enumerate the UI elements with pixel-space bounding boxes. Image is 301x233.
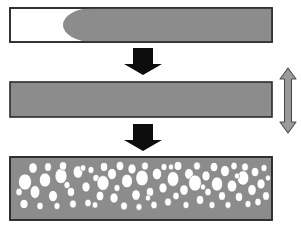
pore-ellipse [45, 163, 52, 171]
pore-ellipse [227, 180, 237, 192]
stage-1-partial-fill [10, 8, 272, 42]
pore-ellipse [173, 192, 179, 200]
pore-ellipse [261, 164, 267, 171]
pore-ellipse [108, 168, 117, 179]
melt-flow-front [63, 8, 123, 42]
pore-ellipse [189, 175, 202, 191]
pore-ellipse [200, 184, 205, 190]
pore-ellipse [54, 202, 60, 209]
pore-ellipse [263, 192, 270, 200]
pore-ellipse [122, 174, 133, 188]
pore-ellipse [202, 171, 210, 181]
pore-ellipse [70, 200, 77, 208]
pore-ellipse [88, 166, 94, 173]
pore-ellipse [165, 198, 172, 206]
pore-ellipse [128, 164, 136, 174]
pore-ellipse [110, 193, 118, 203]
pore-ellipse [183, 201, 189, 208]
pore-ellipse [235, 193, 242, 202]
pore-ellipse [16, 188, 22, 196]
pore-ellipse [161, 163, 167, 170]
pore-ellipse [194, 162, 201, 170]
stage-2-full-fill [10, 82, 272, 117]
pore-ellipse [180, 185, 188, 195]
diagram-canvas [0, 0, 301, 233]
pore-ellipse [136, 204, 142, 211]
pore-ellipse [20, 199, 28, 208]
expansion-arrow [280, 68, 296, 133]
double-headed-vertical-arrow-icon [280, 68, 296, 133]
pore-ellipse [211, 177, 222, 191]
pore-ellipse [251, 167, 259, 176]
pore-ellipse [37, 202, 43, 210]
down-arrow-icon [124, 124, 162, 151]
pore-ellipse [19, 174, 32, 190]
pore-ellipse [219, 192, 226, 200]
process-diagram [0, 0, 301, 233]
pore-ellipse [145, 195, 150, 201]
pore-ellipse [245, 200, 251, 207]
pore-ellipse [97, 176, 109, 191]
pore-ellipse [225, 202, 231, 209]
pore-ellipse [151, 201, 157, 209]
stage-3-foamed [10, 157, 272, 220]
pore-ellipse [205, 188, 211, 196]
pore-ellipse [116, 161, 124, 170]
pore-ellipse [255, 198, 261, 206]
pore-ellipse [196, 196, 203, 205]
pore-ellipse [142, 162, 149, 170]
pore-ellipse [59, 162, 66, 170]
pore-ellipse [114, 184, 120, 191]
pore-ellipse [29, 163, 37, 173]
pore-ellipse [136, 170, 148, 186]
pore-ellipse [39, 173, 50, 187]
pore-ellipse [159, 183, 167, 193]
pore-ellipse [67, 188, 74, 197]
pore-ellipse [30, 186, 40, 199]
flow-arrow-1 [124, 48, 162, 75]
pore-ellipse [80, 165, 86, 171]
pore-ellipse [209, 201, 215, 208]
pore-ellipse [49, 190, 58, 201]
pore-ellipse [82, 182, 90, 192]
down-arrow-icon [124, 48, 162, 75]
pore-ellipse [92, 202, 98, 208]
pore-ellipse [96, 191, 104, 201]
pore-ellipse [234, 173, 239, 179]
pore-ellipse [174, 162, 182, 171]
pore-ellipse [248, 185, 256, 196]
pore-ellipse [121, 202, 128, 210]
pore-ellipse [231, 162, 237, 170]
pore-ellipse [55, 168, 67, 183]
pore-ellipse [221, 165, 230, 176]
pore-ellipse [210, 162, 218, 171]
pore-ellipse [242, 163, 249, 171]
pore-ellipse [257, 179, 265, 189]
pore-ellipse [167, 172, 179, 187]
pore-ellipse [265, 175, 270, 181]
pore-ellipse [85, 199, 91, 207]
flow-arrow-2 [124, 124, 162, 151]
pore-ellipse [168, 164, 173, 170]
pore-ellipse [100, 163, 107, 172]
pore-ellipse [64, 181, 70, 188]
pore-ellipse [152, 168, 161, 180]
pore-ellipse [132, 190, 140, 200]
filled-bar [10, 82, 272, 117]
